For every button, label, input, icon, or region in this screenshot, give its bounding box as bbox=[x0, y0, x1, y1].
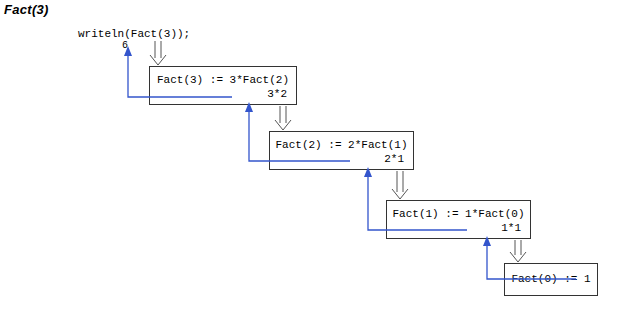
stack-frame-fact0: Fact(0) := 1 bbox=[504, 263, 598, 296]
frame-expression: Fact(3) := 3*Fact(2) bbox=[150, 74, 296, 86]
frame-return-label: 3*2 bbox=[267, 88, 287, 100]
page-title: Fact(3) bbox=[4, 2, 49, 17]
frame-return-label: 1*1 bbox=[501, 222, 521, 234]
call-arrow-fact3-to-fact2 bbox=[275, 106, 291, 130]
stack-frame-fact2: Fact(2) := 2*Fact(1) 2*1 bbox=[269, 131, 414, 170]
frame-expression: Fact(1) := 1*Fact(0) bbox=[387, 208, 530, 220]
call-arrow-fact2-to-fact1 bbox=[392, 171, 408, 199]
call-arrow-fact1-to-fact0 bbox=[510, 240, 526, 262]
result-value-label: 6 bbox=[122, 40, 128, 51]
call-statement: writeln(Fact(3)); bbox=[78, 28, 190, 40]
frame-return-label: 2*1 bbox=[384, 153, 404, 165]
stack-frame-fact3: Fact(3) := 3*Fact(2) 3*2 bbox=[149, 66, 297, 105]
call-arrow-main-to-fact3 bbox=[150, 41, 166, 65]
frame-expression: Fact(2) := 2*Fact(1) bbox=[270, 139, 413, 151]
recursion-trace-diagram: Fact(3) writeln(Fact(3)); 6 Fact(3) := 3… bbox=[0, 0, 624, 312]
stack-frame-fact1: Fact(1) := 1*Fact(0) 1*1 bbox=[386, 200, 531, 239]
frame-expression: Fact(0) := 1 bbox=[505, 273, 597, 285]
